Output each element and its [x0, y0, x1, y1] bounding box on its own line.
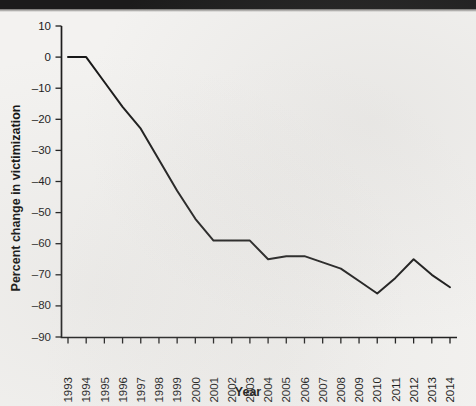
x-tick-label: 1999 — [171, 377, 183, 403]
x-tick-label: 2011 — [390, 377, 402, 402]
y-tick-label: –80 — [32, 299, 51, 311]
x-tick-label: 2005 — [280, 377, 292, 403]
y-tick-label: –50 — [32, 206, 51, 218]
y-tick-label: –10 — [32, 82, 51, 94]
y-axis-ticks: 100–10–20–30–40–50–60–70–80–90 — [32, 20, 62, 343]
x-tick-label: 2012 — [408, 377, 420, 403]
y-tick-label: –20 — [32, 113, 51, 125]
x-tick-label: 2009 — [353, 377, 365, 403]
x-tick-label: 2008 — [335, 377, 347, 403]
axis-spine — [62, 26, 458, 338]
y-axis-title: Percent change in victimization — [9, 105, 23, 292]
line-chart: Percent change in victimization Year 100… — [0, 0, 476, 406]
x-tick-label: 2004 — [262, 376, 274, 402]
chart-svg: Percent change in victimization Year 100… — [0, 0, 476, 406]
x-tick-label: 2003 — [244, 377, 256, 403]
x-tick-label: 2010 — [371, 377, 383, 403]
x-tick-label: 1997 — [135, 377, 147, 403]
x-tick-label: 2013 — [426, 377, 438, 403]
data-series-line — [68, 57, 450, 293]
chart-page: Percent change in victimization Year 100… — [0, 0, 476, 406]
x-tick-label: 1994 — [80, 376, 92, 402]
x-tick-label: 2002 — [226, 377, 238, 403]
x-tick-label: 2001 — [208, 377, 220, 403]
y-tick-label: –60 — [32, 237, 51, 249]
x-tick-label: 1995 — [99, 377, 111, 403]
y-tick-label: –70 — [32, 268, 51, 280]
x-tick-label: 2014 — [444, 376, 456, 402]
x-tick-label: 1996 — [117, 377, 129, 403]
y-tick-label: 0 — [45, 51, 51, 63]
x-tick-label: 2006 — [299, 377, 311, 403]
x-tick-label: 2007 — [317, 377, 329, 403]
y-tick-label: –40 — [32, 175, 51, 187]
y-tick-label: 10 — [38, 20, 51, 32]
y-tick-label: –30 — [32, 144, 51, 156]
x-tick-label: 2000 — [190, 377, 202, 403]
y-tick-label: –90 — [32, 331, 51, 343]
x-tick-label: 1993 — [62, 377, 74, 403]
x-tick-label: 1998 — [153, 377, 165, 403]
